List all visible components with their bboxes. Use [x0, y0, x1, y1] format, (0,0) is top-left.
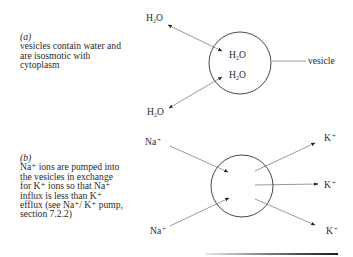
- water-outside-bottom: H2O: [147, 106, 164, 118]
- sodium-influx-arrow-top: [170, 146, 228, 172]
- vesicle-a-membrane: [209, 32, 271, 94]
- diagram-canvas: vesicle H2O H2O H2O H2O Na+ Na+ K+ K+ K+: [0, 0, 353, 257]
- potassium-label-top: K+: [324, 132, 336, 143]
- water-inside-bottom: H2O: [229, 69, 246, 81]
- potassium-efflux-arrow-top: [255, 143, 315, 171]
- sodium-label-bottom: Na+: [150, 225, 166, 236]
- water-outside-top: H2O: [146, 12, 163, 24]
- bidirectional-arrow-icon: [169, 77, 222, 108]
- vesicle-label: vesicle: [308, 55, 335, 66]
- sodium-label-top: Na+: [145, 136, 161, 147]
- sodium-influx-arrow-bottom: [170, 198, 229, 226]
- potassium-label-middle: K+: [324, 179, 336, 190]
- potassium-efflux-arrow-middle: [255, 184, 318, 185]
- bidirectional-arrow-icon: [168, 25, 222, 51]
- water-arrow-bottom: [169, 77, 222, 108]
- vesicle-a: vesicle: [209, 32, 335, 94]
- vesicle-b-membrane: [211, 155, 273, 217]
- water-arrow-top: [168, 25, 222, 51]
- potassium-label-bottom: K+: [326, 225, 338, 236]
- water-inside-top: H2O: [229, 49, 246, 61]
- bottom-rule: [205, 253, 338, 255]
- potassium-efflux-arrow-bottom: [255, 199, 315, 225]
